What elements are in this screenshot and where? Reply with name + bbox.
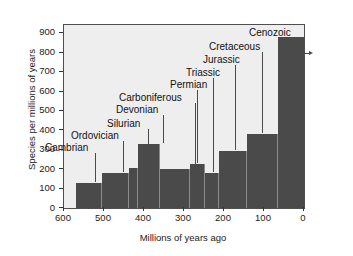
annotation-label-devonian: Devonian bbox=[116, 104, 158, 115]
bars-container bbox=[64, 25, 304, 208]
x-tick-label-400: 400 bbox=[128, 213, 158, 223]
x-tick-mark-500 bbox=[103, 207, 104, 211]
annotation-label-cretaceous: Cretaceous bbox=[209, 41, 260, 52]
leader-line-triassic bbox=[213, 78, 214, 172]
annotation-label-jurassic: Jurassic bbox=[203, 54, 240, 65]
leader-arrow-cenozoic bbox=[309, 51, 313, 55]
annotation-label-triassic: Triassic bbox=[186, 67, 220, 78]
bar-permian bbox=[190, 164, 205, 208]
y-tick-label-200: 200 bbox=[27, 164, 55, 174]
bar-silurian bbox=[129, 168, 138, 208]
x-tick-mark-200 bbox=[223, 207, 224, 211]
x-tick-label-200: 200 bbox=[208, 213, 238, 223]
bar-cambrian bbox=[76, 183, 102, 208]
bar-ordovician bbox=[102, 173, 129, 208]
x-axis-title: Millions of years ago bbox=[63, 232, 303, 243]
leader-line-cenozoic-horizontal bbox=[289, 53, 311, 54]
bar-devonian bbox=[138, 144, 160, 208]
y-tick-label-700: 700 bbox=[27, 66, 55, 76]
y-tick-label-600: 600 bbox=[27, 86, 55, 96]
y-tick-label-900: 900 bbox=[27, 27, 55, 37]
bar-triassic bbox=[205, 173, 219, 208]
leader-line-silurian bbox=[148, 129, 149, 167]
y-tick-label-0: 0 bbox=[27, 203, 55, 213]
x-tick-mark-100 bbox=[263, 207, 264, 211]
y-tick-label-800: 800 bbox=[27, 47, 55, 57]
y-tick-label-500: 500 bbox=[27, 105, 55, 115]
x-tick-label-100: 100 bbox=[248, 213, 278, 223]
x-tick-label-300: 300 bbox=[168, 213, 198, 223]
annotation-label-carboniferous: Carboniferous bbox=[119, 92, 182, 103]
x-tick-mark-0 bbox=[303, 207, 304, 211]
annotation-label-silurian: Silurian bbox=[107, 118, 140, 129]
leader-line-carboniferous bbox=[195, 103, 196, 168]
y-tick-label-100: 100 bbox=[27, 183, 55, 193]
leader-line-jurassic bbox=[235, 65, 236, 150]
bar-cenozoic bbox=[278, 37, 304, 208]
bar-cretaceous bbox=[247, 134, 278, 208]
plot-area bbox=[63, 24, 305, 209]
y-tick-label-400: 400 bbox=[27, 125, 55, 135]
bar-jurassic bbox=[219, 151, 247, 208]
annotation-label-cambrian: Cambrian bbox=[45, 142, 88, 153]
x-tick-mark-400 bbox=[143, 207, 144, 211]
annotation-label-ordovician: Ordovician bbox=[71, 130, 119, 141]
annotation-label-permian: Permian bbox=[170, 79, 207, 90]
x-tick-mark-300 bbox=[183, 207, 184, 211]
chart-figure: Species per millions of years Millions o… bbox=[0, 0, 353, 256]
leader-line-devonian bbox=[163, 115, 164, 143]
bar-carboniferous bbox=[160, 169, 190, 208]
x-tick-mark-600 bbox=[63, 207, 64, 211]
leader-line-ordovician bbox=[123, 141, 124, 172]
annotation-label-cenozoic: Cenozoic bbox=[249, 27, 291, 38]
leader-line-cretaceous bbox=[262, 52, 263, 133]
leader-line-permian bbox=[197, 90, 198, 163]
x-tick-label-0: 0 bbox=[288, 213, 318, 223]
leader-line-cambrian bbox=[95, 153, 96, 182]
x-tick-label-500: 500 bbox=[88, 213, 118, 223]
x-tick-label-600: 600 bbox=[48, 213, 78, 223]
